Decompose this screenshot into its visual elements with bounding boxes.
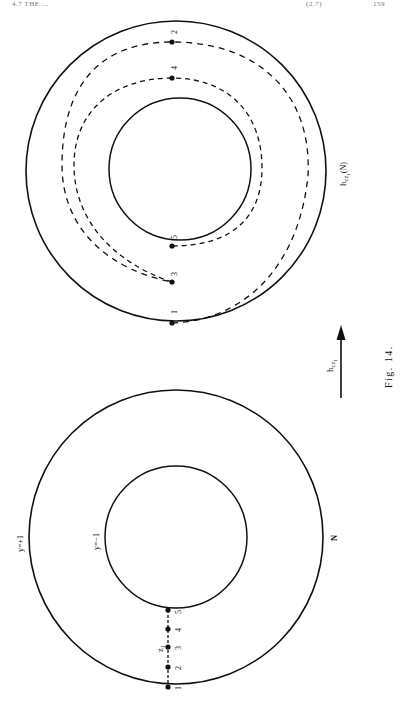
- svg-text:z1: z1: [155, 645, 166, 652]
- point-label-1: 1: [170, 310, 179, 314]
- point-label-4: 4: [170, 66, 179, 70]
- point-label-5: 5: [174, 610, 183, 614]
- trajectory-3-4-5: [74, 78, 262, 282]
- point-label-4: 4: [174, 628, 183, 632]
- point-label-3: 3: [174, 646, 183, 650]
- point-4: [165, 626, 170, 631]
- figure-right: 1 2 3 4 5 hcz1(N): [26, 21, 351, 326]
- region-label: N: [329, 534, 339, 541]
- points: [169, 39, 174, 325]
- point-5: [165, 607, 170, 612]
- point-2: [165, 664, 170, 669]
- figure-left: 1 2 3 4 5 z1 y=+1 y=−1 N: [16, 390, 339, 690]
- path-label: z1: [155, 645, 166, 652]
- inner-circle: [109, 98, 251, 240]
- point-4: [169, 75, 174, 80]
- point-label-2: 2: [170, 30, 179, 34]
- figure-caption: Fig. 14.: [383, 345, 394, 388]
- point-3: [169, 279, 174, 284]
- point-label-2: 2: [174, 666, 183, 670]
- point-label-1: 1: [174, 686, 183, 690]
- point-2: [169, 39, 174, 44]
- point-5: [169, 243, 174, 248]
- point-3: [165, 644, 170, 649]
- point-1: [165, 684, 170, 689]
- arrow-head-icon: [337, 325, 346, 340]
- outer-circle: [29, 390, 323, 684]
- arrow-label: hcz1: [325, 359, 338, 372]
- inner-circle: [105, 466, 247, 608]
- inner-circle-label: y=−1: [92, 533, 101, 550]
- point-label-3: 3: [170, 272, 179, 276]
- svg-text:hcz1(N): hcz1(N): [338, 162, 351, 186]
- trajectory-1-2-3: [62, 42, 308, 323]
- figure-14: 1 2 3 4 5 hcz1(N) hcz1 Fig. 14.: [0, 0, 413, 704]
- outer-label: hcz1(N): [338, 162, 351, 186]
- field-arrow: hcz1: [325, 325, 346, 398]
- outer-circle-label: y=+1: [16, 535, 25, 552]
- point-label-5: 5: [170, 235, 179, 239]
- point-1: [169, 320, 174, 325]
- svg-text:hcz1: hcz1: [325, 359, 338, 372]
